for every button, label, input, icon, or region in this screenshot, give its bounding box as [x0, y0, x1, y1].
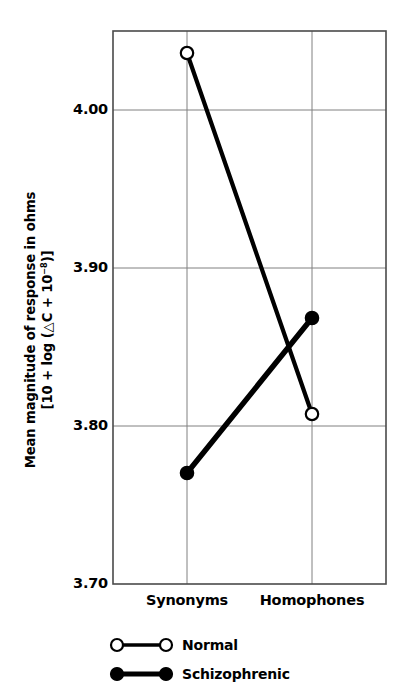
gridlines-horizontal — [113, 110, 386, 426]
data-point-normal-synonyms — [181, 47, 193, 59]
legend-swatch-normal — [111, 639, 172, 651]
legend-label-normal: Normal — [182, 637, 238, 653]
series-line-schizophrenic — [187, 318, 312, 473]
plot-frame — [113, 31, 386, 584]
data-point-normal-homophones — [306, 408, 318, 420]
legend-label-schizophrenic: Schizophrenic — [182, 666, 290, 682]
data-point-schizophrenic-synonyms — [180, 466, 193, 479]
chart-figure: Mean magnitude of response in ohms [10 +… — [0, 0, 411, 698]
x-tick-label-synonyms: Synonyms — [131, 592, 243, 608]
gridlines-vertical — [187, 31, 312, 584]
legend-swatch-schizophrenic — [111, 668, 173, 681]
data-point-schizophrenic-homophones — [305, 311, 318, 324]
x-tick-label-homophones: Homophones — [246, 592, 378, 608]
series-line-normal — [187, 53, 312, 414]
